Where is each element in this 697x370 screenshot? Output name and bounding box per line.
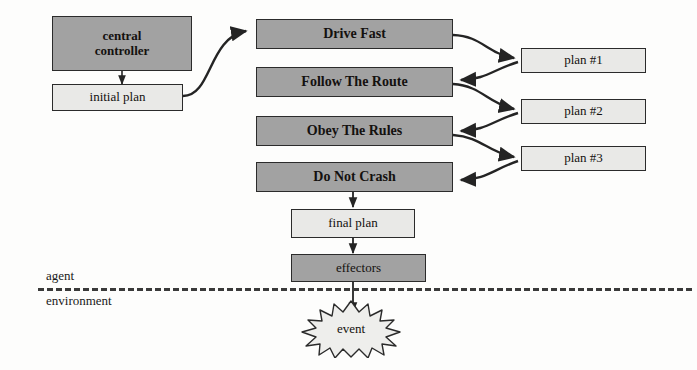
event-label: event (296, 300, 406, 358)
agent-environment-boundary (38, 288, 692, 291)
agent-architecture-diagram: central controller initial plan Drive Fa… (0, 0, 697, 370)
plan-2-label: plan #2 (564, 104, 603, 119)
central-controller-label: central controller (95, 29, 150, 59)
node-obey-the-rules[interactable]: Obey The Rules (256, 116, 453, 146)
agent-region-label: agent (46, 268, 74, 284)
do-not-crash-label: Do Not Crash (313, 169, 395, 185)
edge-drive-fast-to-plan-1 (453, 35, 514, 58)
node-initial-plan[interactable]: initial plan (52, 84, 183, 111)
final-plan-label: final plan (328, 216, 377, 231)
plan-1-label: plan #1 (564, 53, 603, 68)
edge-initial-plan-to-drive-fast (183, 31, 246, 96)
node-plan-2[interactable]: plan #2 (521, 99, 646, 124)
node-plan-1[interactable]: plan #1 (521, 48, 646, 73)
node-do-not-crash[interactable]: Do Not Crash (256, 162, 453, 192)
node-follow-the-route[interactable]: Follow The Route (256, 67, 453, 97)
edge-obey-the-rules-to-plan-3 (453, 135, 514, 157)
node-final-plan[interactable]: final plan (291, 209, 415, 238)
edge-plan-2-to-obey-the-rules (461, 113, 518, 131)
environment-region-label: environment (46, 293, 112, 309)
node-effectors[interactable]: effectors (291, 254, 426, 282)
plan-3-label: plan #3 (564, 151, 603, 166)
initial-plan-label: initial plan (90, 90, 146, 105)
edge-plan-3-to-do-not-crash (461, 161, 518, 180)
follow-the-route-label: Follow The Route (301, 74, 407, 90)
node-drive-fast[interactable]: Drive Fast (256, 19, 453, 49)
drive-fast-label: Drive Fast (323, 26, 386, 42)
node-event[interactable]: event (296, 300, 406, 358)
edge-follow-the-route-to-plan-2 (453, 84, 514, 109)
obey-the-rules-label: Obey The Rules (307, 123, 402, 139)
effectors-label: effectors (336, 261, 381, 276)
node-central-controller[interactable]: central controller (52, 16, 192, 71)
edge-plan-1-to-follow-the-route (461, 62, 518, 80)
node-plan-3[interactable]: plan #3 (521, 146, 646, 171)
